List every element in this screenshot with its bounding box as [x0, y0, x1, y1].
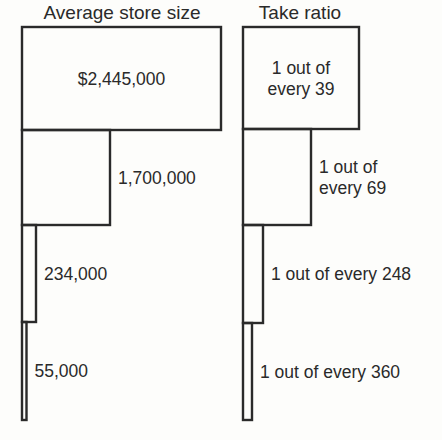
- take-ratio-label-line: every 69: [319, 178, 386, 198]
- take-ratio-label: 1 out of every 248: [271, 264, 411, 284]
- take-ratio-bar: [243, 129, 311, 225]
- store-size-title: Average store size: [43, 2, 200, 23]
- take-ratio-label-line: every 39: [267, 79, 334, 99]
- store-size-bar: [22, 225, 36, 322]
- take-ratio-label-line: 1 out of every 360: [260, 362, 400, 382]
- chart: Average store size$2,445,0001,700,000234…: [0, 0, 442, 440]
- store-size-label: 1,700,000: [118, 168, 196, 188]
- take-ratio-bar: [243, 323, 252, 420]
- store-size-label: 234,000: [44, 264, 108, 284]
- store-size-label-line: 55,000: [35, 361, 89, 381]
- store-size-label: $2,445,000: [78, 69, 166, 89]
- store-size-bar: [22, 322, 27, 420]
- store-size-label: 55,000: [35, 361, 89, 381]
- store-size-label-line: 234,000: [44, 264, 108, 284]
- take-ratio-label: 1 out of every 360: [260, 362, 400, 382]
- take-ratio-bar: [243, 225, 263, 323]
- store-size-label-line: 1,700,000: [118, 168, 196, 188]
- store-size-bar: [22, 130, 110, 225]
- take-ratio-label-line: 1 out of every 248: [271, 264, 411, 284]
- store-size-label-line: $2,445,000: [78, 69, 166, 89]
- take-ratio-label-line: 1 out of: [319, 157, 378, 177]
- take-ratio-label: 1 out ofevery 39: [267, 58, 334, 99]
- take-ratio-label: 1 out ofevery 69: [319, 157, 386, 198]
- take-ratio-title: Take ratio: [259, 2, 341, 23]
- take-ratio-label-line: 1 out of: [272, 58, 331, 78]
